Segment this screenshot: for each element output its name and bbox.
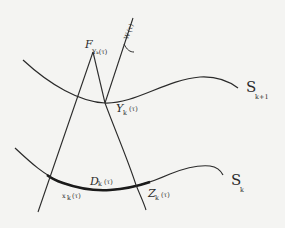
label-f-sub: Yₖ(τ) <box>91 48 108 56</box>
label-x-sub: k <box>67 194 71 202</box>
angle-arc <box>124 44 134 52</box>
label-z-arg: (τ) <box>161 191 170 199</box>
label-s-k-sub: k <box>240 186 244 194</box>
line-w-lower <box>105 103 146 210</box>
diagram-canvas: F Yₖ(τ) W(τ) Y k (τ) x k (τ) D k (τ) Z k… <box>0 0 285 228</box>
label-x-arg: (τ) <box>72 192 81 200</box>
label-y-arg: (τ) <box>129 105 138 113</box>
curve-s-k <box>15 148 223 190</box>
label-y-sub: k <box>123 109 127 117</box>
label-d-arg: (τ) <box>104 178 113 186</box>
line-f-upper <box>93 52 105 103</box>
label-s-k-plus-1-sub: k+1 <box>255 93 269 101</box>
label-x: x <box>62 192 66 200</box>
label-d-sub: k <box>98 180 102 188</box>
label-w: W(τ) <box>122 22 135 41</box>
label-z-sub: k <box>155 194 159 202</box>
curve-s-k-plus-1 <box>23 60 238 103</box>
